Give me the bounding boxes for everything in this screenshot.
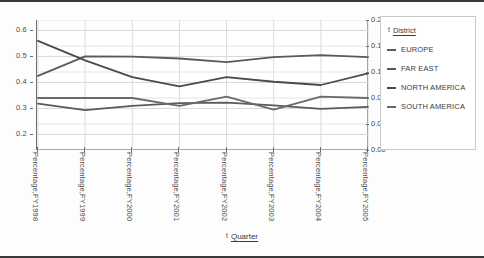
x-axis-category-label: Percentage,FY2001 — [172, 152, 181, 230]
line-chart-svg — [37, 20, 369, 150]
field-pill-icon: t — [226, 232, 228, 239]
x-axis-title-label: Quarter — [231, 232, 258, 241]
legend-item[interactable]: SOUTH AMERICA — [387, 102, 469, 111]
left-axis-tick-label: 0.6 — [16, 26, 27, 34]
plot-frame — [36, 20, 368, 150]
right-axis-tick-mark — [366, 20, 369, 21]
plot-area — [36, 20, 368, 150]
left-axis-tick-mark — [30, 134, 33, 135]
x-axis-category-label: Percentage,FY1998 — [31, 152, 40, 230]
legend-title-label: District — [393, 26, 416, 35]
x-axis-category-label: Percentage,FY2005 — [361, 152, 370, 230]
legend-color-swatch-icon — [387, 87, 396, 89]
x-axis-category-label: Percentage,FY2004 — [314, 152, 323, 230]
x-axis-category-label: Percentage,FY2002 — [220, 152, 229, 230]
x-axis-title[interactable]: tQuarter — [0, 232, 484, 241]
x-axis-category-label: Percentage,FY2003 — [267, 152, 276, 230]
series-line-north-america[interactable] — [38, 41, 368, 87]
left-axis-tick-mark — [30, 108, 33, 109]
chart-window: 0.20.30.40.50.6 0.000.040.080.120.160.20… — [0, 0, 484, 258]
series-line-far-east[interactable] — [38, 103, 368, 111]
legend-title[interactable]: tDistrict — [388, 26, 469, 35]
left-axis: 0.20.30.40.50.6 — [0, 20, 33, 150]
x-axis-category-label: Percentage,FY2000 — [125, 152, 134, 230]
right-axis-tick-mark — [366, 72, 369, 73]
legend-color-swatch-icon — [387, 68, 396, 70]
left-axis-tick-label: 0.5 — [16, 52, 27, 60]
left-axis-tick-mark — [30, 30, 33, 31]
right-axis-tick-mark — [366, 46, 369, 47]
legend-color-swatch-icon — [387, 106, 396, 108]
series-line-europe[interactable] — [38, 55, 368, 76]
legend-item-label: EUROPE — [401, 45, 434, 54]
legend-panel: tDistrict EUROPEFAR EASTNORTH AMERICASOU… — [380, 16, 476, 150]
left-axis-tick-label: 0.2 — [16, 130, 27, 138]
x-axis-category-label: Percentage,FY1999 — [78, 152, 87, 230]
legend-item-label: SOUTH AMERICA — [401, 102, 465, 111]
legend-item-label: NORTH AMERICA — [401, 83, 465, 92]
left-axis-tick-mark — [30, 82, 33, 83]
left-axis-tick-label: 0.3 — [16, 104, 27, 112]
right-axis-tick-mark — [366, 98, 369, 99]
x-axis-labels: Percentage,FY1998Percentage,FY1999Percen… — [36, 152, 368, 230]
legend-item[interactable]: NORTH AMERICA — [387, 83, 469, 92]
legend-item[interactable]: FAR EAST — [387, 64, 469, 73]
legend-items: EUROPEFAR EASTNORTH AMERICASOUTH AMERICA — [387, 45, 469, 111]
right-axis-tick-mark — [366, 124, 369, 125]
left-axis-tick-label: 0.4 — [16, 78, 27, 86]
legend-item[interactable]: EUROPE — [387, 45, 469, 54]
legend-item-label: FAR EAST — [401, 64, 438, 73]
left-axis-tick-mark — [30, 56, 33, 57]
legend-color-swatch-icon — [387, 49, 396, 51]
legend-field-pill-icon: t — [388, 26, 390, 33]
